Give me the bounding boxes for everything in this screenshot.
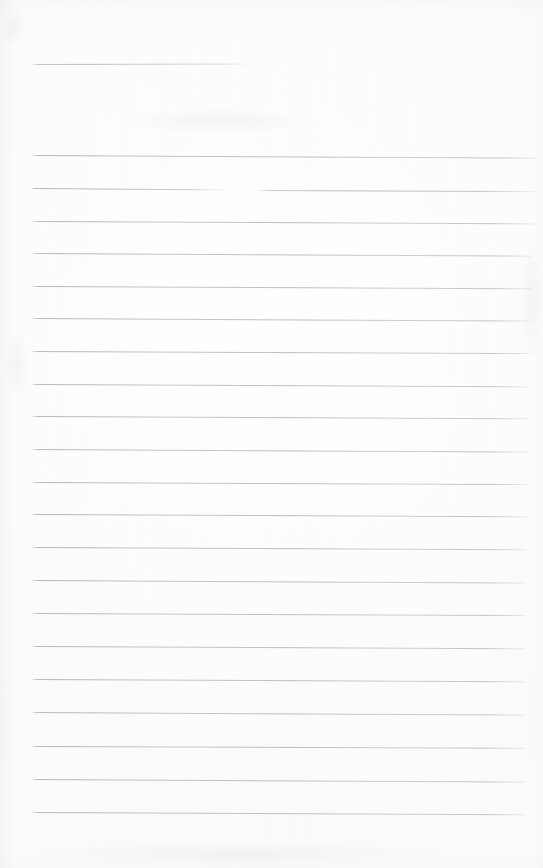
ruled-line — [31, 679, 527, 682]
ruled-line — [31, 155, 540, 159]
ruled-line — [31, 547, 529, 550]
ruled-line — [31, 646, 528, 649]
ruled-line — [31, 449, 530, 453]
ruled-line — [31, 746, 527, 749]
ruling-layer — [0, 0, 543, 868]
ruled-line — [31, 221, 536, 224]
ruled-line — [257, 190, 538, 192]
ruled-line — [31, 812, 527, 815]
ruled-line — [31, 613, 528, 616]
ruled-line — [31, 416, 531, 419]
ruled-line — [31, 351, 532, 354]
ruled-line — [31, 712, 527, 716]
ruled-line — [31, 514, 529, 517]
ruled-line — [31, 779, 527, 783]
ruled-line — [31, 384, 531, 387]
ruled-line — [31, 318, 532, 322]
ruled-line — [31, 188, 232, 191]
ruled-line — [31, 63, 250, 65]
ruled-line — [31, 253, 534, 257]
ruled-line — [31, 580, 528, 584]
ruled-line — [31, 482, 530, 485]
scanned-paper-page: A scanned blank sheet of ruled writing p… — [0, 0, 543, 868]
ruled-line — [31, 286, 534, 289]
